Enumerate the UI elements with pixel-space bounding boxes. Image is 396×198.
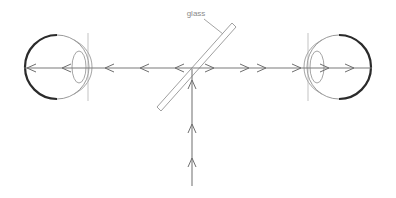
glass-label: glass	[187, 9, 206, 18]
diagram-canvas: glass	[0, 0, 396, 198]
optics-diagram-figure: glass	[0, 0, 396, 198]
